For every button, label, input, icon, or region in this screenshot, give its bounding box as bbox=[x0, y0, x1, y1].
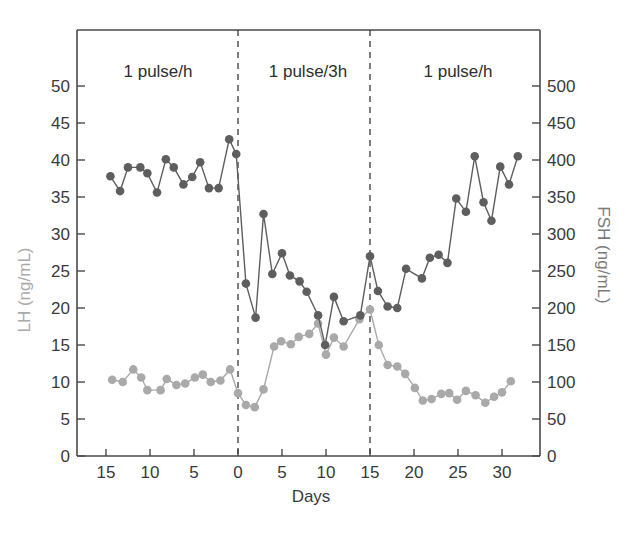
x-tick-label: 30 bbox=[493, 463, 512, 482]
right-tick-label: 150 bbox=[547, 336, 575, 355]
right-tick-label: 200 bbox=[547, 299, 575, 318]
lh-data-point bbox=[445, 389, 454, 398]
fsh-data-point bbox=[153, 188, 162, 197]
fsh-data-point bbox=[169, 163, 178, 172]
phase-label-1: 1 pulse/h bbox=[124, 62, 193, 81]
fsh-data-point bbox=[205, 184, 214, 193]
fsh-data-point bbox=[321, 341, 330, 350]
lh-data-point bbox=[294, 333, 303, 342]
lh-data-point bbox=[419, 396, 428, 405]
lh-data-point bbox=[162, 375, 171, 384]
left-axis-title: LH (ng/mL) bbox=[15, 247, 34, 332]
fsh-data-point bbox=[496, 162, 505, 171]
lh-data-point bbox=[259, 385, 268, 394]
x-ticks: 15105051015202530 bbox=[97, 449, 512, 482]
x-tick-label: 20 bbox=[405, 463, 424, 482]
lh-data-point bbox=[156, 386, 165, 395]
right-axis-title: FSH (ng/mL) bbox=[594, 206, 613, 303]
fsh-data-point bbox=[143, 169, 152, 178]
fsh-data-point bbox=[225, 135, 234, 144]
lh-data-point bbox=[471, 391, 480, 400]
phase-label-2: 1 pulse/3h bbox=[269, 62, 347, 81]
lh-data-point bbox=[322, 350, 331, 359]
right-tick-label: 50 bbox=[547, 410, 566, 429]
fsh-data-point bbox=[487, 216, 496, 225]
fsh-data-point bbox=[434, 250, 443, 259]
lh-data-point bbox=[498, 388, 507, 397]
phase-label-3: 1 pulse/h bbox=[424, 62, 493, 81]
x-tick-label: 10 bbox=[317, 463, 336, 482]
fsh-data-point bbox=[366, 252, 375, 261]
fsh-data-point bbox=[259, 210, 268, 219]
lh-data-point bbox=[250, 403, 259, 412]
left-tick-label: 40 bbox=[51, 151, 70, 170]
fsh-data-point bbox=[314, 311, 323, 320]
right-y-ticks: 050100150200250300350400450500 bbox=[532, 77, 575, 466]
left-tick-label: 20 bbox=[51, 299, 70, 318]
fsh-data-point bbox=[339, 317, 348, 326]
series-lh bbox=[108, 305, 515, 411]
fsh-data-point bbox=[383, 302, 392, 311]
left-tick-label: 5 bbox=[61, 410, 70, 429]
lh-data-point bbox=[437, 390, 446, 399]
fsh-data-point bbox=[295, 277, 304, 286]
x-tick-label: 15 bbox=[361, 463, 380, 482]
lh-data-point bbox=[411, 384, 420, 393]
fsh-data-point bbox=[106, 172, 115, 181]
dual-axis-line-chart: 05101520253035404550 0501001502002503003… bbox=[0, 0, 638, 539]
fsh-data-point bbox=[418, 274, 427, 283]
lh-data-point bbox=[226, 365, 235, 374]
lh-data-point bbox=[270, 342, 279, 351]
fsh-data-point bbox=[462, 208, 471, 217]
left-tick-label: 10 bbox=[51, 373, 70, 392]
lh-data-point bbox=[490, 393, 499, 402]
lh-data-point bbox=[191, 373, 200, 382]
fsh-data-point bbox=[470, 152, 479, 161]
fsh-data-point bbox=[179, 180, 188, 189]
lh-data-point bbox=[129, 365, 138, 374]
lh-data-point bbox=[481, 398, 490, 407]
left-tick-label: 15 bbox=[51, 336, 70, 355]
fsh-data-point bbox=[251, 313, 260, 322]
x-tick-label: 5 bbox=[189, 463, 198, 482]
phase-dividers bbox=[238, 30, 370, 456]
fsh-data-point bbox=[426, 253, 435, 262]
lh-data-point bbox=[507, 377, 516, 386]
fsh-data-point bbox=[505, 180, 514, 189]
fsh-data-point bbox=[302, 287, 311, 296]
lh-data-point bbox=[199, 370, 208, 379]
lh-data-point bbox=[427, 395, 436, 404]
x-tick-label: 0 bbox=[233, 463, 242, 482]
fsh-data-point bbox=[162, 155, 171, 164]
left-tick-label: 35 bbox=[51, 188, 70, 207]
fsh-data-point bbox=[443, 259, 452, 268]
left-tick-label: 50 bbox=[51, 77, 70, 96]
fsh-data-point bbox=[374, 287, 383, 296]
x-tick-label: 5 bbox=[277, 463, 286, 482]
right-tick-label: 100 bbox=[547, 373, 575, 392]
lh-data-point bbox=[401, 370, 410, 379]
left-tick-label: 45 bbox=[51, 114, 70, 133]
left-tick-label: 25 bbox=[51, 262, 70, 281]
right-tick-label: 450 bbox=[547, 114, 575, 133]
lh-data-point bbox=[181, 379, 190, 388]
fsh-data-point bbox=[356, 311, 365, 320]
left-tick-label: 0 bbox=[61, 447, 70, 466]
lh-data-point bbox=[143, 386, 152, 395]
lh-data-point bbox=[277, 337, 286, 346]
x-axis-title: Days bbox=[292, 487, 331, 506]
lh-data-point bbox=[108, 375, 117, 384]
right-tick-label: 350 bbox=[547, 188, 575, 207]
lh-data-point bbox=[305, 330, 314, 339]
left-tick-label: 30 bbox=[51, 225, 70, 244]
lh-data-point bbox=[206, 378, 215, 387]
left-y-ticks: 05101520253035404550 bbox=[51, 77, 85, 466]
fsh-data-point bbox=[242, 279, 251, 288]
fsh-data-point bbox=[278, 249, 287, 258]
fsh-data-point bbox=[402, 264, 411, 273]
lh-data-point bbox=[383, 361, 392, 370]
fsh-data-point bbox=[393, 304, 402, 313]
fsh-data-point bbox=[268, 270, 277, 279]
lh-data-point bbox=[366, 305, 375, 314]
fsh-data-point bbox=[286, 271, 295, 280]
